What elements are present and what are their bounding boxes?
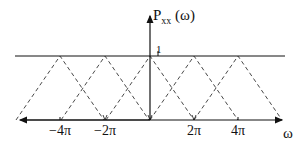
power-spectrum-diagram: Pxx (ω) 1 ω −4π −2π 2π 4π	[0, 0, 303, 142]
tick-label-4pi: 4π	[231, 124, 245, 138]
tick-label-minus-4pi: −4π	[49, 124, 71, 138]
tick-label-2pi: 2π	[187, 124, 201, 138]
diagram-canvas	[0, 0, 303, 142]
tick-label-minus-2pi: −2π	[94, 124, 116, 138]
level-one-label: 1	[156, 44, 162, 55]
x-ticks	[60, 51, 238, 120]
dashed-triangles	[16, 56, 282, 120]
y-axis-label: Pxx (ω)	[153, 8, 195, 26]
x-axis-label: ω	[283, 126, 293, 141]
